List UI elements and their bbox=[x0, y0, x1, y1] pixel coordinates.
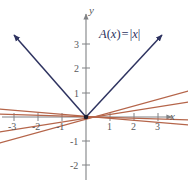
y-tick-label--2: -2 bbox=[70, 161, 78, 171]
x-tick-label--3: -3 bbox=[8, 122, 16, 132]
x-tick-label-3: 3 bbox=[155, 122, 160, 132]
equation-bar-close: | bbox=[138, 27, 141, 41]
equation-function-name: A bbox=[99, 27, 107, 41]
x-tick-label-2: 2 bbox=[131, 122, 136, 132]
equation-annotation: A(x) = |x| bbox=[99, 28, 140, 41]
x-tick-label--1: -1 bbox=[56, 122, 64, 132]
x-tick-label-1: 1 bbox=[107, 122, 112, 132]
y-tick-label-2: 2 bbox=[74, 64, 79, 74]
equation-paren-close: ) bbox=[116, 27, 120, 41]
equation-equals: = bbox=[122, 27, 129, 41]
x-tick-label--2: -2 bbox=[32, 122, 40, 132]
absolute-value-graph-figure: x y -3 -2 -1 1 2 3 3 2 1 -1 -2 A(x) = |x… bbox=[0, 0, 188, 185]
y-axis-label: y bbox=[89, 5, 94, 16]
axes-group bbox=[2, 14, 172, 180]
y-tick-label--1: -1 bbox=[70, 137, 78, 147]
x-axis-label: x bbox=[170, 111, 175, 122]
origin-point bbox=[84, 115, 89, 120]
graph-canvas bbox=[0, 0, 188, 185]
y-tick-label-1: 1 bbox=[74, 89, 79, 99]
y-tick-label-3: 3 bbox=[74, 40, 79, 50]
curve-right-branch bbox=[86, 35, 162, 117]
